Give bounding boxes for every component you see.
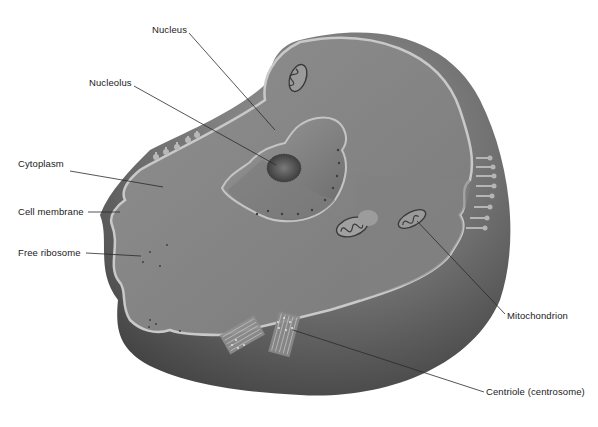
label-nucleolus: Nucleolus <box>89 77 132 88</box>
label-mitochondrion: Mitochondrion <box>507 310 568 321</box>
label-free-ribosome: Free ribosome <box>18 247 81 258</box>
label-nucleus: Nucleus <box>152 24 187 35</box>
label-centriole: Centriole (centrosome) <box>486 386 585 397</box>
cell-illustration <box>0 0 598 427</box>
cell-diagram: Nucleus Nucleolus Cytoplasm Cell membran… <box>0 0 598 427</box>
nucleolus <box>267 154 301 182</box>
label-cytoplasm: Cytoplasm <box>18 158 64 169</box>
label-cell-membrane: Cell membrane <box>18 206 84 217</box>
